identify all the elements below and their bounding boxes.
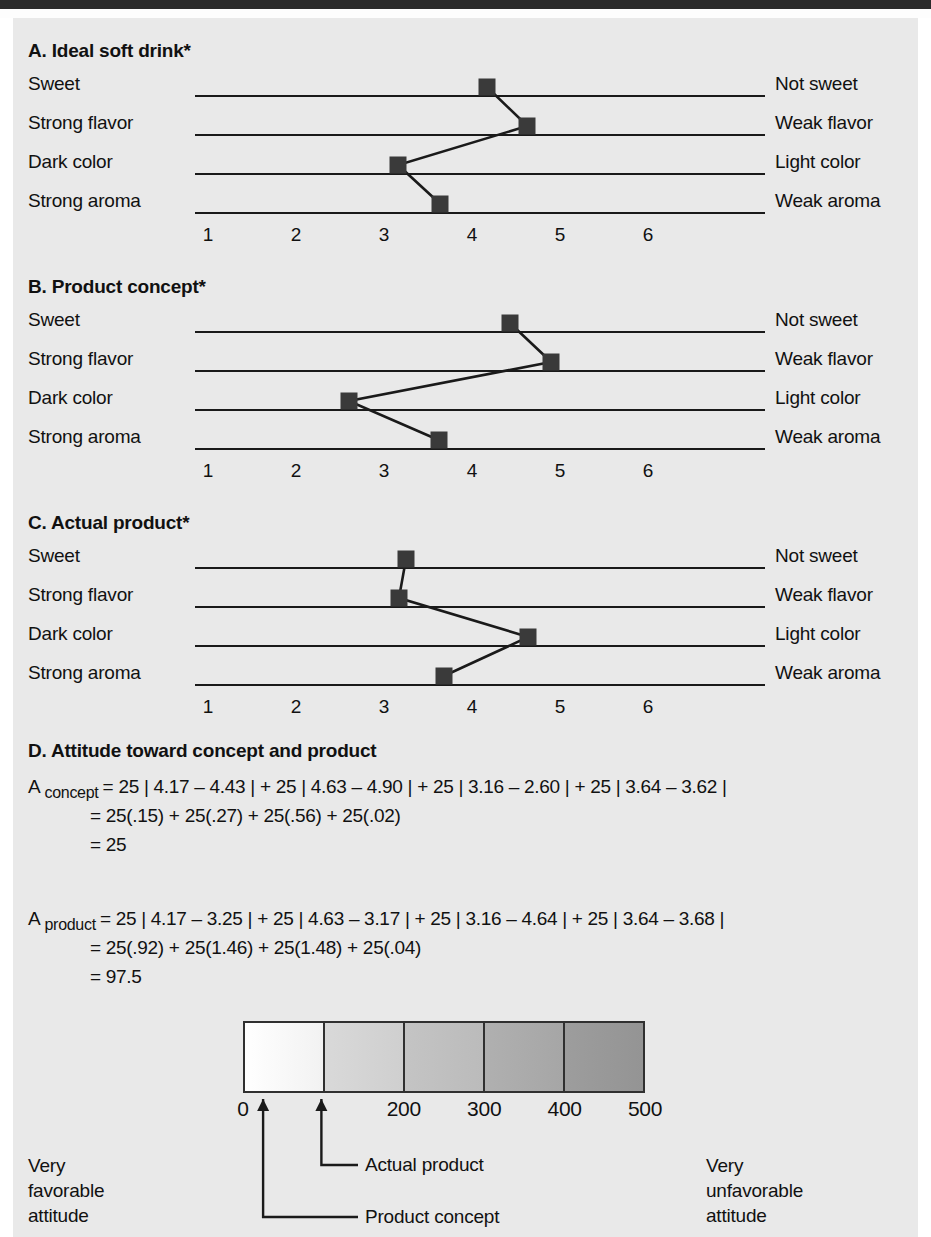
attribute-scale-line xyxy=(195,331,765,333)
profile-row: Dark colorLight color xyxy=(13,623,918,659)
header-gap xyxy=(0,9,931,18)
equation-block-product: A product = 25 | 4.17 – 3.25 | + 25 | 4.… xyxy=(28,908,908,988)
profile-marker[interactable] xyxy=(430,432,447,449)
attribute-scale-line xyxy=(195,409,765,411)
note-line: attitude xyxy=(706,1203,803,1228)
attribute-scale-line xyxy=(195,567,765,569)
profile-marker[interactable] xyxy=(398,551,415,568)
profile-row: Strong flavorWeak flavor xyxy=(13,584,918,620)
attribute-label-left: Sweet xyxy=(28,73,80,95)
equation-symbol: A xyxy=(28,908,40,929)
equation-subscript: concept xyxy=(40,784,102,801)
attribute-scale-line xyxy=(195,134,765,136)
attribute-label-right: Light color xyxy=(775,623,860,645)
attribute-label-left: Dark color xyxy=(28,623,113,645)
panel-title-a: A. Ideal soft drink* xyxy=(28,40,191,62)
attitude-scale-section: 0200300400500 Actual productProduct conc… xyxy=(13,1021,918,1237)
equation-line-1: A concept = 25 | 4.17 – 4.43 | + 25 | 4.… xyxy=(28,776,908,798)
axis-tick-label: 1 xyxy=(203,224,213,246)
equation-expression: = 25 | 4.17 – 4.43 | + 25 | 4.63 – 4.90 … xyxy=(103,776,727,797)
equation-block-concept: A concept = 25 | 4.17 – 4.43 | + 25 | 4.… xyxy=(28,776,908,856)
attribute-label-left: Dark color xyxy=(28,151,113,173)
very-favorable-note: Veryfavorableattitude xyxy=(28,1153,104,1228)
profile-marker[interactable] xyxy=(543,354,560,371)
attribute-label-left: Sweet xyxy=(28,309,80,331)
callout-arrow-actual-product xyxy=(315,1099,358,1165)
axis-tick-label: 4 xyxy=(467,460,477,482)
attribute-label-left: Strong aroma xyxy=(28,426,141,448)
equation-symbol: A xyxy=(28,776,40,797)
attribute-scale-line xyxy=(195,370,765,372)
profile-row: Strong aromaWeak aroma xyxy=(13,662,918,698)
axis-tick-label: 5 xyxy=(555,696,565,718)
note-line: unfavorable xyxy=(706,1178,803,1203)
attribute-label-right: Weak flavor xyxy=(775,348,873,370)
attribute-scale-line xyxy=(195,684,765,686)
attribute-label-right: Light color xyxy=(775,387,860,409)
profile-row: Strong aromaWeak aroma xyxy=(13,190,918,226)
attribute-label-left: Strong flavor xyxy=(28,112,133,134)
axis-tick-label: 3 xyxy=(379,224,389,246)
axis-tick-label: 6 xyxy=(643,460,653,482)
axis-tick-label: 6 xyxy=(643,696,653,718)
profile-marker[interactable] xyxy=(501,315,518,332)
attribute-label-right: Weak flavor xyxy=(775,112,873,134)
attribute-label-right: Weak aroma xyxy=(775,662,880,684)
profile-marker[interactable] xyxy=(390,157,407,174)
callout-label-product-concept: Product concept xyxy=(365,1206,499,1228)
attribute-scale-line xyxy=(195,645,765,647)
equation-line-1: A product = 25 | 4.17 – 3.25 | + 25 | 4.… xyxy=(28,908,908,930)
profile-marker[interactable] xyxy=(432,196,449,213)
equation-expression: = 25 | 4.17 – 3.25 | + 25 | 4.63 – 3.17 … xyxy=(100,908,724,929)
section-d-title: D. Attitude toward concept and product xyxy=(28,740,376,762)
profile-marker[interactable] xyxy=(478,79,495,96)
profile-marker[interactable] xyxy=(340,393,357,410)
attribute-label-left: Sweet xyxy=(28,545,80,567)
profile-row: SweetNot sweet xyxy=(13,545,918,581)
profile-row: Strong flavorWeak flavor xyxy=(13,112,918,148)
profile-marker[interactable] xyxy=(520,629,537,646)
attribute-label-right: Weak aroma xyxy=(775,190,880,212)
axis-tick-label: 5 xyxy=(555,224,565,246)
equation-subscript: product xyxy=(40,916,100,933)
attribute-label-right: Not sweet xyxy=(775,73,858,95)
equation-line-3: = 25 xyxy=(90,834,908,856)
axis-tick-label: 3 xyxy=(379,696,389,718)
profile-marker[interactable] xyxy=(435,668,452,685)
attribute-label-right: Not sweet xyxy=(775,309,858,331)
axis-tick-label: 3 xyxy=(379,460,389,482)
axis-tick-label: 2 xyxy=(291,224,301,246)
axis-tick-label: 1 xyxy=(203,460,213,482)
profile-panel-b: B. Product concept*SweetNot sweetStrong … xyxy=(13,276,918,517)
note-line: Very xyxy=(706,1153,803,1178)
attribute-scale-line xyxy=(195,173,765,175)
profile-marker[interactable] xyxy=(390,590,407,607)
axis-tick-row: 123456 xyxy=(13,460,918,486)
attribute-label-right: Weak aroma xyxy=(775,426,880,448)
axis-tick-label: 4 xyxy=(467,224,477,246)
equation-line-2: = 25(.15) + 25(.27) + 25(.56) + 25(.02) xyxy=(90,805,908,827)
attribute-label-right: Not sweet xyxy=(775,545,858,567)
axis-tick-row: 123456 xyxy=(13,696,918,722)
profile-marker[interactable] xyxy=(519,118,536,135)
attribute-label-left: Strong aroma xyxy=(28,190,141,212)
callout-arrow-product-concept xyxy=(257,1099,358,1217)
attribute-label-left: Dark color xyxy=(28,387,113,409)
profile-panel-a: A. Ideal soft drink*SweetNot sweetStrong… xyxy=(13,40,918,281)
equation-line-3: = 97.5 xyxy=(90,966,908,988)
profile-panel-c: C. Actual product*SweetNot sweetStrong f… xyxy=(13,512,918,753)
note-line: Very xyxy=(28,1153,104,1178)
profile-row: SweetNot sweet xyxy=(13,309,918,345)
attribute-label-right: Light color xyxy=(775,151,860,173)
attribute-label-right: Weak flavor xyxy=(775,584,873,606)
profile-row: SweetNot sweet xyxy=(13,73,918,109)
equation-line-2: = 25(.92) + 25(1.46) + 25(1.48) + 25(.04… xyxy=(90,937,908,959)
axis-tick-row: 123456 xyxy=(13,224,918,250)
attribute-label-left: Strong flavor xyxy=(28,348,133,370)
panel-title-c: C. Actual product* xyxy=(28,512,189,534)
profile-row: Strong flavorWeak flavor xyxy=(13,348,918,384)
axis-tick-label: 6 xyxy=(643,224,653,246)
figure-page: A. Ideal soft drink*SweetNot sweetStrong… xyxy=(13,18,918,1237)
profile-row: Strong aromaWeak aroma xyxy=(13,426,918,462)
profile-row: Dark colorLight color xyxy=(13,151,918,187)
